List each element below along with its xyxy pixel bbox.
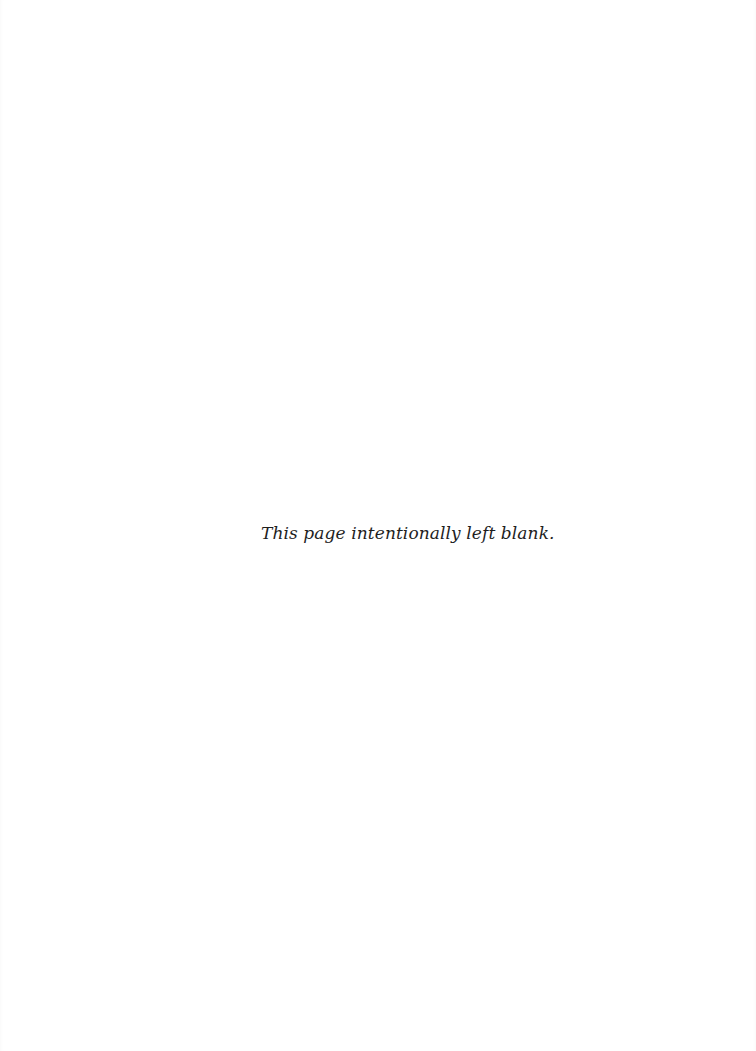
blank-page-notice: This page intentionally left blank. bbox=[261, 521, 555, 545]
blank-page: This page intentionally left blank. bbox=[0, 0, 756, 1051]
